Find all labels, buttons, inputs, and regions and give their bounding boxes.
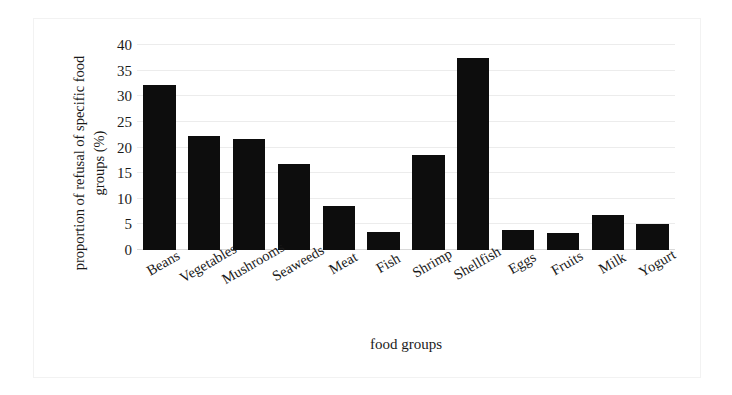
bar-slot <box>451 45 496 250</box>
x-label-slot: Mushrooms <box>227 252 272 332</box>
bar-milk[interactable] <box>592 215 624 250</box>
x-tick-label-eggs: Eggs <box>506 249 539 277</box>
x-label-slot: Fruits <box>541 252 586 332</box>
bar-slot <box>137 45 182 250</box>
x-label-slot: Yogurt <box>630 252 675 332</box>
x-label-slot: Meat <box>316 252 361 332</box>
bar-shrimp[interactable] <box>412 155 444 250</box>
y-axis-tick-labels: 4035302520151050 <box>90 45 132 250</box>
x-label-slot: Fish <box>361 252 406 332</box>
bar-slot <box>630 45 675 250</box>
x-tick-label-fruits: Fruits <box>548 248 585 279</box>
bar-meat[interactable] <box>323 206 355 250</box>
x-tick-label-beans: Beans <box>144 247 183 279</box>
y-tick-label-40: 40 <box>94 38 132 53</box>
bar-chart-figure: proportion of refusal of specific food g… <box>0 0 732 395</box>
bar-slot <box>585 45 630 250</box>
x-tick-label-yogurt: Yogurt <box>635 246 677 280</box>
bar-fruits[interactable] <box>547 233 579 250</box>
x-label-slot: Milk <box>585 252 630 332</box>
x-axis-title: food groups <box>137 336 675 353</box>
bar-slot <box>496 45 541 250</box>
bar-slot <box>406 45 451 250</box>
x-label-slot: Beans <box>137 252 182 332</box>
bar-fish[interactable] <box>367 232 399 250</box>
x-label-slot: Eggs <box>496 252 541 332</box>
bar-slot <box>361 45 406 250</box>
y-tick-label-35: 35 <box>94 64 132 79</box>
bar-series <box>137 45 675 250</box>
x-label-slot: Vegetables <box>182 252 227 332</box>
y-axis-title-line-1: proportion of refusal of specific food <box>69 56 89 271</box>
bar-slot <box>272 45 317 250</box>
bar-vegetables[interactable] <box>188 136 220 250</box>
bar-beans[interactable] <box>143 85 175 250</box>
x-label-slot: Seaweeds <box>272 252 317 332</box>
x-tick-label-milk: Milk <box>596 249 628 277</box>
y-tick-label-5: 5 <box>94 217 132 232</box>
y-tick-label-30: 30 <box>94 89 132 104</box>
x-label-slot: Shrimp <box>406 252 451 332</box>
y-tick-label-10: 10 <box>94 192 132 207</box>
plot-area <box>137 45 675 250</box>
bar-eggs[interactable] <box>502 230 534 251</box>
y-tick-label-0: 0 <box>94 243 132 258</box>
bar-yogurt[interactable] <box>636 224 668 250</box>
x-label-slot: Shellfish <box>451 252 496 332</box>
x-axis-tick-labels: BeansVegetablesMushroomsSeaweedsMeatFish… <box>137 252 675 332</box>
bar-shellfish[interactable] <box>457 58 489 250</box>
bar-seaweeds[interactable] <box>278 164 310 250</box>
bar-slot <box>316 45 361 250</box>
x-tick-label-fish: Fish <box>373 250 403 276</box>
x-tick-label-shrimp: Shrimp <box>410 245 455 280</box>
bar-mushrooms[interactable] <box>233 139 265 250</box>
y-tick-label-15: 15 <box>94 166 132 181</box>
y-tick-label-25: 25 <box>94 115 132 130</box>
y-tick-label-20: 20 <box>94 141 132 156</box>
bar-slot <box>541 45 586 250</box>
bar-slot <box>182 45 227 250</box>
bar-slot <box>227 45 272 250</box>
x-tick-label-meat: Meat <box>326 249 360 278</box>
